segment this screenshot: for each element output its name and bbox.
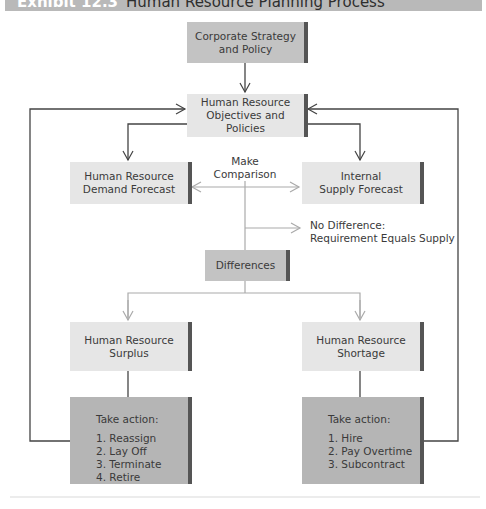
loop-right	[308, 109, 458, 441]
label-text: Make	[205, 155, 285, 168]
label-text: Requirement Equals Supply	[310, 232, 486, 245]
action-heading: Take action:	[328, 413, 390, 426]
box-text: Surplus	[109, 347, 148, 360]
box-text: Human Resource	[201, 96, 290, 109]
action-item: 1. Reassign	[96, 432, 161, 445]
action-item: 1. Hire	[328, 432, 412, 445]
corporate-strategy-box: Corporate Strategy and Policy	[187, 22, 308, 63]
differences-box: Differences	[205, 250, 290, 281]
action-item: 3. Subcontract	[328, 458, 412, 471]
label-text: Comparison	[205, 168, 285, 181]
box-text: Differences	[216, 259, 276, 272]
hr-surplus-box: Human Resource Surplus	[70, 322, 192, 371]
no-difference-label: No Difference: Requirement Equals Supply	[310, 219, 486, 245]
loop-left	[30, 109, 185, 441]
hr-objectives-box: Human Resource Objectives and Policies	[187, 94, 308, 137]
shortage-action-box: Take action: 1. Hire 2. Pay Overtime 3. …	[302, 397, 424, 484]
shortage-action-list: 1. Hire 2. Pay Overtime 3. Subcontract	[328, 432, 412, 471]
supply-forecast-box: Internal Supply Forecast	[302, 162, 424, 204]
action-item: 2. Lay Off	[96, 445, 161, 458]
box-text: Objectives and	[206, 109, 284, 122]
make-comparison-label: Make Comparison	[205, 155, 285, 181]
box-text: Supply Forecast	[319, 183, 403, 196]
box-text: Shortage	[337, 347, 385, 360]
footer-divider	[10, 496, 480, 498]
box-text: Human Resource	[316, 334, 405, 347]
action-item: 3. Terminate	[96, 458, 161, 471]
arrow-objectives-to-demand	[128, 124, 187, 160]
hr-shortage-box: Human Resource Shortage	[302, 322, 424, 371]
box-text: Corporate Strategy	[195, 30, 296, 43]
box-text: Demand Forecast	[83, 183, 175, 196]
box-text: and Policy	[219, 43, 272, 56]
action-item: 2. Pay Overtime	[328, 445, 412, 458]
arrow-objectives-to-supply	[306, 124, 360, 160]
box-text: Human Resource	[84, 334, 173, 347]
action-heading: Take action:	[96, 413, 158, 426]
demand-forecast-box: Human Resource Demand Forecast	[70, 162, 192, 204]
label-text: No Difference:	[310, 219, 486, 232]
box-text: Policies	[226, 122, 265, 135]
box-text: Human Resource	[84, 170, 173, 183]
surplus-action-list: 1. Reassign 2. Lay Off 3. Terminate 4. R…	[96, 432, 161, 484]
action-item: 4. Retire	[96, 471, 161, 484]
surplus-action-box: Take action: 1. Reassign 2. Lay Off 3. T…	[70, 397, 192, 484]
box-text: Internal	[341, 170, 381, 183]
